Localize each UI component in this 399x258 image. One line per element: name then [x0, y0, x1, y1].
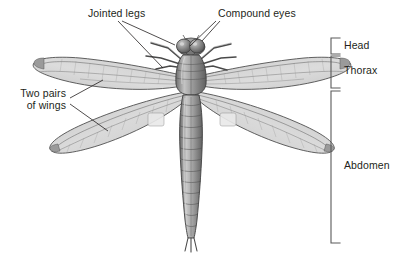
- region-label-head: Head: [344, 40, 370, 52]
- callout-label-compound-eyes: Compound eyes: [218, 8, 296, 20]
- callout-label-wings-line2: of wings: [4, 100, 66, 112]
- dragonfly-anatomy-figure: [0, 0, 399, 258]
- wing-lower-left: [50, 92, 188, 153]
- wing-lower-right: [196, 92, 334, 153]
- callout-label-two-pairs-of-wings: Two pairs of wings: [4, 88, 66, 111]
- leader-compound-eyes-2: [202, 21, 220, 41]
- tail-appendages: [185, 238, 197, 252]
- wing-upper-left: [33, 57, 185, 89]
- region-label-abdomen: Abdomen: [344, 160, 390, 172]
- callout-label-jointed-legs: Jointed legs: [88, 8, 145, 20]
- wing-upper-right: [199, 57, 351, 89]
- bracket-head: [331, 38, 340, 54]
- thorax-group: [176, 55, 206, 95]
- bracket-abdomen: [331, 91, 340, 243]
- abdomen-group: [180, 95, 203, 252]
- callout-label-wings-line1: Two pairs: [4, 88, 66, 100]
- region-label-thorax: Thorax: [344, 65, 377, 77]
